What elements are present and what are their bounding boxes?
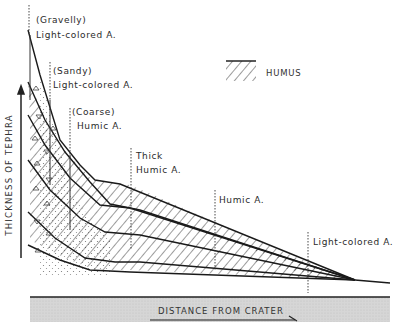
zone-label-coarse-name: Humic A. bbox=[77, 121, 122, 132]
legend-swatch bbox=[226, 61, 256, 81]
zone-label-humic-name: Humic A. bbox=[219, 195, 264, 206]
zone-label-thick-name: Humic A. bbox=[136, 165, 181, 176]
zone-label-gravelly-name: Light-colored A. bbox=[36, 30, 116, 41]
zone-label-sandy-name: Light-colored A. bbox=[53, 80, 133, 91]
tephra-diagram bbox=[0, 0, 400, 333]
zone-label-thick-qualifier: Thick bbox=[136, 151, 163, 162]
legend-label: HUMUS bbox=[266, 68, 302, 78]
zone-label-light-distal-name: Light-colored A. bbox=[313, 237, 393, 248]
x-axis-label: DISTANCE FROM CRATER bbox=[158, 306, 284, 316]
zone-label-sandy-qualifier: (Sandy) bbox=[53, 66, 92, 77]
zone-label-coarse-qualifier: (Coarse) bbox=[72, 107, 115, 118]
y-axis-label: THICKNESS OF TEPHRA bbox=[4, 95, 16, 255]
zone-label-gravelly-qualifier: (Gravelly) bbox=[36, 15, 86, 26]
y-axis-arrow bbox=[18, 86, 24, 258]
